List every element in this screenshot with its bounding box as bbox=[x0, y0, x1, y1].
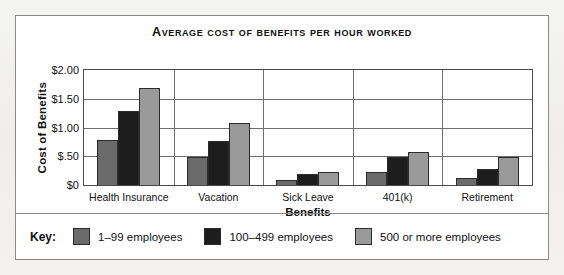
bar bbox=[477, 169, 498, 185]
y-axis-tick-label: $2.00 bbox=[51, 64, 79, 76]
y-axis-tick-label: $0 bbox=[67, 179, 79, 191]
y-axis-tick-label: $1.50 bbox=[51, 93, 79, 105]
chart-area: Average Cost of Benefits per Hour Worked… bbox=[16, 16, 548, 213]
bar-group: Sick Leave bbox=[263, 70, 353, 185]
bar bbox=[456, 178, 477, 185]
bar bbox=[318, 172, 339, 185]
legend-items: 1–99 employees100–499 employees500 or mo… bbox=[73, 228, 523, 245]
legend-swatch bbox=[73, 228, 90, 245]
bar bbox=[118, 111, 139, 185]
legend-item-label: 1–99 employees bbox=[98, 231, 182, 243]
chart-figure-frame: Average Cost of Benefits per Hour Worked… bbox=[15, 15, 549, 260]
legend-item-label: 500 or more employees bbox=[380, 231, 501, 243]
bar bbox=[276, 180, 297, 185]
bar bbox=[366, 172, 387, 185]
bar bbox=[408, 152, 429, 185]
y-axis-tick-label: $1.00 bbox=[51, 122, 79, 134]
y-axis-tick-label: $.50 bbox=[58, 150, 79, 162]
page-background: Average Cost of Benefits per Hour Worked… bbox=[0, 0, 564, 275]
bar bbox=[229, 123, 250, 185]
bar-group: Health Insurance bbox=[84, 70, 174, 185]
bar bbox=[387, 157, 408, 185]
legend-swatch bbox=[355, 228, 372, 245]
chart-title: Average Cost of Benefits per Hour Worked bbox=[16, 25, 548, 39]
legend-item: 500 or more employees bbox=[355, 228, 501, 245]
legend-swatch bbox=[204, 228, 221, 245]
plot-area: $0$.50$1.00$1.50$2.00Health InsuranceVac… bbox=[83, 69, 533, 186]
bar bbox=[297, 174, 318, 185]
bar bbox=[498, 157, 519, 185]
bar bbox=[208, 141, 229, 185]
legend-item: 100–499 employees bbox=[204, 228, 333, 245]
y-axis-title-text: Cost of Benefits bbox=[36, 82, 48, 173]
legend-item: 1–99 employees bbox=[73, 228, 182, 245]
y-axis-title: Cost of Benefits bbox=[36, 69, 48, 186]
bar bbox=[97, 140, 118, 185]
bar bbox=[187, 157, 208, 185]
x-axis-tick-label: Retirement bbox=[422, 191, 552, 203]
chart-legend: Key: 1–99 employees100–499 employees500 … bbox=[16, 214, 548, 259]
bar bbox=[139, 88, 160, 185]
legend-item-label: 100–499 employees bbox=[229, 231, 333, 243]
bar-group: 401(k) bbox=[353, 70, 443, 185]
legend-title: Key: bbox=[30, 230, 56, 244]
bar-group: Retirement bbox=[442, 70, 532, 185]
bar-group: Vacation bbox=[174, 70, 264, 185]
